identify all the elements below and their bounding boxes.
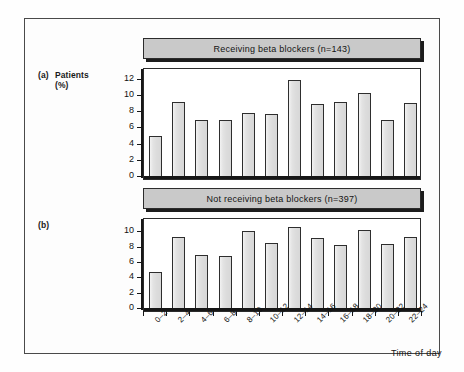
y-axis-tick-label: 12 (118, 74, 134, 83)
y-axis-tick (137, 277, 142, 278)
y-axis-tick (137, 262, 142, 263)
bar (288, 227, 301, 308)
y-axis-tick-label: 8 (118, 106, 134, 115)
panel-a-label: (a)Patients (%) (38, 70, 89, 90)
bar (172, 102, 185, 176)
panel-a-tag: (a) (38, 70, 55, 80)
panel-b-tag: (b) (38, 220, 55, 230)
bar (195, 255, 208, 308)
y-axis-tick-label: 0 (118, 171, 134, 180)
y-axis-tick (137, 160, 142, 161)
y-axis-tick-label: 6 (118, 122, 134, 131)
y-axis-tick-label: 8 (118, 242, 134, 251)
y-axis-tick (137, 293, 142, 294)
bar (381, 120, 394, 176)
y-axis-tick-label: 10 (118, 90, 134, 99)
x-axis-title: Time of day (391, 348, 442, 358)
y-axis-tick-label: 4 (118, 272, 134, 281)
y-axis-tick-label: 0 (118, 303, 134, 312)
bar (288, 80, 301, 176)
plot-area-a (144, 69, 420, 179)
bar (149, 272, 162, 308)
y-axis-tick (137, 144, 142, 145)
bar (404, 237, 417, 308)
bar (358, 93, 371, 176)
bar (311, 238, 324, 308)
panel-b-title-text: Not receiving beta blockers (n=397) (206, 194, 357, 204)
x-axis-baseline (144, 176, 420, 179)
y-axis-tick (137, 176, 142, 177)
bar (242, 231, 255, 308)
y-axis-tick-label: 6 (118, 257, 134, 266)
y-axis-tick (137, 308, 142, 309)
bar (334, 102, 347, 176)
y-axis-tick-label: 2 (118, 288, 134, 297)
y-axis-tick-label: 2 (118, 155, 134, 164)
y-axis-tick (137, 247, 142, 248)
panel-b-label: (b) (38, 220, 55, 230)
bar (358, 230, 371, 308)
chart-panel-b (143, 218, 421, 312)
bar (265, 114, 278, 176)
bar (219, 120, 232, 176)
chart-panel-a (143, 68, 421, 180)
bar (172, 237, 185, 308)
y-axis-tick-label: 10 (118, 226, 134, 235)
y-axis-tick (137, 95, 142, 96)
bar (219, 256, 232, 308)
bar (381, 244, 394, 308)
bar (404, 103, 417, 176)
bar (242, 113, 255, 176)
bar (311, 104, 324, 176)
y-axis-tick (137, 231, 142, 232)
panel-b-title-banner: Not receiving beta blockers (n=397) (143, 188, 421, 209)
y-axis-line (141, 69, 143, 178)
bar (149, 136, 162, 176)
panel-a-axis-label-line2: (%) (55, 80, 89, 90)
y-axis-tick (137, 127, 142, 128)
bar (265, 243, 278, 308)
panel-a-title-banner: Receiving beta blockers (n=143) (143, 38, 421, 59)
x-axis-tick (143, 311, 144, 316)
y-axis-tick (137, 79, 142, 80)
panel-a-axis-label-line1: Patients (55, 70, 89, 80)
y-axis-tick (137, 111, 142, 112)
bar (195, 120, 208, 176)
y-axis-tick-label: 4 (118, 139, 134, 148)
panel-a-title-text: Receiving beta blockers (n=143) (213, 44, 350, 54)
y-axis-line (141, 219, 143, 310)
figure-canvas: (a)Patients (%) (b) Receiving beta block… (0, 0, 464, 372)
bar (334, 245, 347, 308)
plot-area-b (144, 219, 420, 311)
